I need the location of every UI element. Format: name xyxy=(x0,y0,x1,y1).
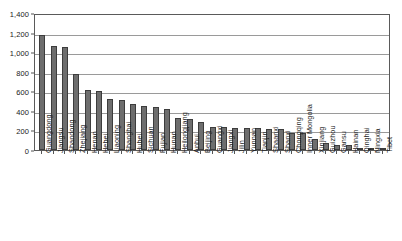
x-axis-category-label: Beijing xyxy=(203,131,212,153)
x-axis-category-label: Zhejiang xyxy=(78,125,87,153)
x-axis-tick-mark xyxy=(189,151,190,154)
x-axis-tick-mark xyxy=(348,151,349,154)
x-axis-category-label: Fujian xyxy=(158,133,167,153)
x-axis-category-label: Shanghai xyxy=(124,122,133,153)
x-axis-category-label: Shandong xyxy=(67,119,76,153)
y-axis-tick-label: 400 xyxy=(16,107,29,116)
x-axis-tick-mark xyxy=(98,151,99,154)
x-axis-tick-mark xyxy=(291,151,292,154)
y-axis-tick-label: 800 xyxy=(16,68,29,77)
x-axis-category-label: Hainan xyxy=(351,130,360,153)
x-axis-tick-mark xyxy=(336,151,337,154)
x-axis-tick-mark xyxy=(223,151,224,154)
x-axis-category-label: Sichuan xyxy=(146,126,155,153)
x-axis-category-label: Chongqing xyxy=(294,117,303,153)
x-axis-category-label: Inner Mongolia xyxy=(305,104,314,153)
x-axis-tick-mark xyxy=(280,151,281,154)
x-axis-category-label: Jiangsu xyxy=(56,127,65,153)
x-axis-tick-mark xyxy=(234,151,235,154)
x-axis-tick-mark xyxy=(302,151,303,154)
x-axis-category-label: Tianjin xyxy=(260,131,269,153)
x-axis-category-label: Hunan xyxy=(169,131,178,153)
x-axis-tick-mark xyxy=(64,151,65,154)
x-axis-category-label: Liaoning xyxy=(112,125,121,153)
x-axis-tick-mark xyxy=(370,151,371,154)
x-axis-tick-mark xyxy=(132,151,133,154)
x-axis-tick-mark xyxy=(359,151,360,154)
x-axis-category-label: Qinghai xyxy=(362,127,371,153)
x-axis-tick-mark xyxy=(314,151,315,154)
x-axis-category-label: Gansu xyxy=(339,131,348,153)
x-axis-tick-mark xyxy=(53,151,54,154)
x-axis-tick-mark xyxy=(325,151,326,154)
y-axis-tick-mark xyxy=(31,14,34,15)
x-axis-tick-mark xyxy=(382,151,383,154)
x-axis-tick-mark xyxy=(143,151,144,154)
x-axis-category-label: Shanxi xyxy=(283,130,292,153)
y-axis-tick-mark xyxy=(31,151,34,152)
x-axis-category-label: Heilongjiang xyxy=(180,112,189,153)
x-axis-tick-mark xyxy=(155,151,156,154)
x-axis-category-label: Xinjiang xyxy=(317,127,326,153)
bar-chart: 1,4001,2001,0008006004002000 GuangdongJi… xyxy=(0,0,402,241)
x-axis-tick-mark xyxy=(257,151,258,154)
x-axis-tick-mark xyxy=(212,151,213,154)
y-axis-tick-label: 1,400 xyxy=(10,10,29,19)
y-axis-tick-label: 200 xyxy=(16,127,29,136)
x-axis-category-label: Guangxi xyxy=(215,125,224,153)
y-axis-tick-labels: 1,4001,2001,0008006004002000 xyxy=(0,0,29,241)
y-axis-tick-mark xyxy=(31,72,34,73)
x-axis-category-label: Guizhou xyxy=(328,125,337,153)
x-axis-tick-mark xyxy=(87,151,88,154)
y-axis-tick-label: 600 xyxy=(16,88,29,97)
x-axis-tick-mark xyxy=(121,151,122,154)
x-axis-tick-mark xyxy=(268,151,269,154)
y-axis-tick-mark xyxy=(31,33,34,34)
y-axis-tick-label: 1,200 xyxy=(10,29,29,38)
x-axis-tick-mark xyxy=(177,151,178,154)
x-axis-tick-mark xyxy=(41,151,42,154)
x-axis-category-label: Henan xyxy=(90,131,99,153)
y-axis-tick-mark xyxy=(31,53,34,54)
x-axis-category-label: Yunnan xyxy=(249,128,258,153)
x-axis-category-label: Ningxia xyxy=(373,128,382,153)
x-axis-tick-mark xyxy=(246,151,247,154)
x-axis-tick-mark xyxy=(109,151,110,154)
x-axis-category-label: Shaanxi xyxy=(271,126,280,153)
x-axis-tick-mark xyxy=(200,151,201,154)
x-axis-category-labels: GuangdongJiangsuShandongZhejiangHenanHeb… xyxy=(34,153,390,241)
y-axis-tick-label: 1,000 xyxy=(10,49,29,58)
x-axis-tick-mark xyxy=(75,151,76,154)
y-axis-tick-mark xyxy=(31,92,34,93)
y-axis-tick-mark xyxy=(31,131,34,132)
x-axis-category-label: Guangdong xyxy=(44,114,53,153)
y-axis-tick-label: 0 xyxy=(25,147,29,156)
x-axis-category-label: Jiangxi xyxy=(226,130,235,153)
x-axis-category-label: Tibet xyxy=(385,137,394,153)
x-axis-tick-mark xyxy=(166,151,167,154)
y-axis-tick-mark xyxy=(31,111,34,112)
